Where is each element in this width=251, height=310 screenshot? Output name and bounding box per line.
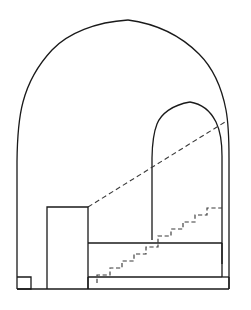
drawing-background <box>0 0 251 310</box>
section-drawing-svg: Architectural cross-section of a vaulted… <box>0 0 251 310</box>
architectural-section-figure: Architectural cross-section of a vaulted… <box>0 0 251 310</box>
